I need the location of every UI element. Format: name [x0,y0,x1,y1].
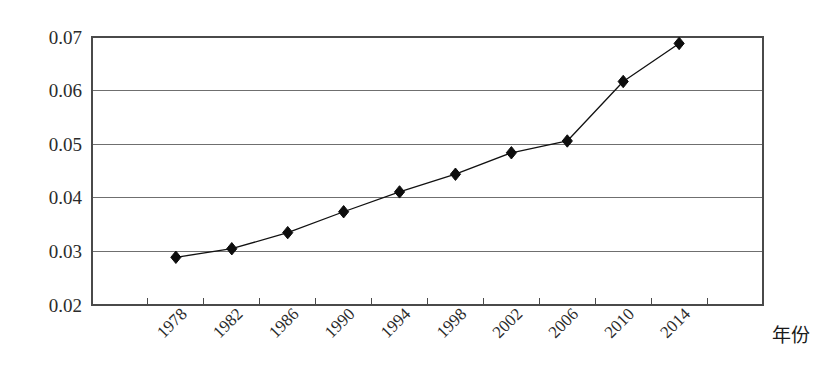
chart-canvas: 0.020.030.040.050.060.07 197819821986199… [0,0,833,388]
y-tick-label: 0.03 [49,241,82,262]
x-axis-title: 年份 [772,325,810,346]
y-tick-label: 0.07 [49,27,82,48]
y-tick-label: 0.02 [49,295,82,316]
y-tick-label: 0.04 [49,187,83,208]
y-tick-label: 0.05 [49,134,82,155]
y-tick-label: 0.06 [49,80,82,101]
chart-background [0,0,833,388]
line-chart: 0.020.030.040.050.060.07 197819821986199… [0,0,833,388]
